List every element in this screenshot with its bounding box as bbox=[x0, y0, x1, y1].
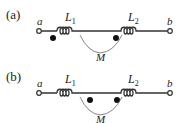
terminal-a bbox=[37, 29, 42, 34]
mutual-inductance-label: M bbox=[95, 113, 106, 123]
panel-label: (b) bbox=[6, 69, 21, 84]
polarity-dot bbox=[87, 97, 93, 103]
coupled-inductor-diagram: (a) a b L1 L2 M (b) a b L1 L2 M bbox=[0, 0, 181, 123]
panel-a: (a) a b L1 L2 M bbox=[6, 7, 173, 63]
mutual-inductance-label: M bbox=[95, 51, 106, 63]
terminal-b-label: b bbox=[167, 77, 173, 89]
terminal-b bbox=[168, 29, 173, 34]
terminal-b bbox=[168, 91, 173, 96]
inductor-2-label: L2 bbox=[127, 10, 139, 26]
inductor-1-label: L1 bbox=[64, 72, 76, 88]
inductor-1-label: L1 bbox=[64, 10, 76, 26]
terminal-b-label: b bbox=[167, 15, 173, 27]
terminal-a-label: a bbox=[37, 77, 43, 89]
panel-b: (b) a b L1 L2 M bbox=[6, 69, 173, 123]
polarity-dot bbox=[50, 35, 56, 41]
inductor-2-label: L2 bbox=[127, 72, 139, 88]
circuit-wire bbox=[41, 27, 167, 34]
panel-label: (a) bbox=[6, 7, 20, 22]
terminal-a bbox=[37, 91, 42, 96]
polarity-dot bbox=[113, 35, 119, 41]
terminal-a-label: a bbox=[37, 15, 43, 27]
circuit-wire bbox=[41, 89, 167, 96]
